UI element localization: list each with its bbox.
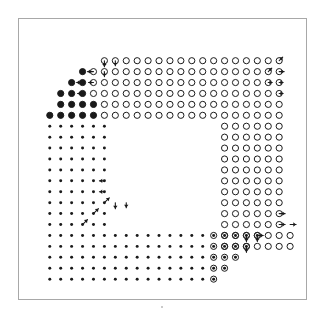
marker-open-circle xyxy=(167,58,173,64)
marker-small-dot xyxy=(59,168,62,171)
marker-open-circle xyxy=(232,189,238,195)
marker-ringed-dot-inner xyxy=(223,234,226,237)
marker-small-dot xyxy=(70,256,73,259)
marker-open-circle xyxy=(101,79,107,85)
marker-small-dot xyxy=(114,234,117,237)
marker-open-circle xyxy=(254,101,260,107)
marker-open-circle xyxy=(243,221,249,227)
marker-open-circle xyxy=(134,79,140,85)
marker-small-dot xyxy=(48,212,51,215)
marker-open-circle xyxy=(243,69,249,75)
marker-small-dot xyxy=(179,278,182,281)
marker-small-dot xyxy=(147,267,150,270)
marker-small-dot xyxy=(92,168,95,171)
marker-open-circle xyxy=(221,167,227,173)
marker-filled-circle xyxy=(58,101,64,107)
marker-open-circle xyxy=(254,243,260,249)
marker-small-dot xyxy=(59,158,62,161)
marker-open-circle xyxy=(211,101,217,107)
marker-open-circle xyxy=(265,145,271,151)
vector-arrow-head xyxy=(78,91,81,95)
marker-open-circle xyxy=(189,79,195,85)
marker-open-circle xyxy=(243,90,249,96)
marker-open-circle xyxy=(243,200,249,206)
marker-filled-circle xyxy=(90,112,96,118)
marker-small-dot xyxy=(103,267,106,270)
marker-small-dot xyxy=(59,125,62,128)
marker-small-dot xyxy=(158,278,161,281)
marker-small-dot xyxy=(179,234,182,237)
marker-small-dot xyxy=(81,267,84,270)
marker-small-dot xyxy=(92,201,95,204)
marker-small-dot xyxy=(168,245,171,248)
marker-filled-circle xyxy=(58,112,64,118)
vector-arrow-head xyxy=(99,179,102,183)
marker-small-dot xyxy=(81,234,84,237)
vector-arrow-head xyxy=(102,64,106,67)
marker-open-circle xyxy=(200,58,206,64)
marker-small-dot xyxy=(48,234,51,237)
marker-open-circle xyxy=(265,243,271,249)
marker-small-dot xyxy=(81,147,84,150)
vector-arrow-head xyxy=(282,222,285,226)
marker-open-circle xyxy=(112,90,118,96)
marker-filled-circle xyxy=(69,101,75,107)
marker-small-dot xyxy=(92,147,95,150)
marker-open-circle xyxy=(145,58,151,64)
marker-filled-circle xyxy=(47,112,53,118)
marker-open-circle xyxy=(265,112,271,118)
marker-open-circle xyxy=(156,101,162,107)
marker-small-dot xyxy=(59,212,62,215)
marker-open-circle xyxy=(265,221,271,227)
marker-small-dot xyxy=(81,212,84,215)
marker-small-dot xyxy=(48,179,51,182)
marker-small-dot xyxy=(147,278,150,281)
marker-small-dot xyxy=(103,212,106,215)
marker-small-dot xyxy=(92,245,95,248)
marker-small-dot xyxy=(59,267,62,270)
marker-small-dot xyxy=(70,125,73,128)
marker-open-circle xyxy=(167,90,173,96)
marker-open-circle xyxy=(254,200,260,206)
marker-small-dot xyxy=(136,245,139,248)
marker-open-circle xyxy=(254,123,260,129)
marker-open-circle xyxy=(254,69,260,75)
marker-small-dot xyxy=(48,256,51,259)
marker-small-dot xyxy=(103,256,106,259)
marker-small-dot xyxy=(190,245,193,248)
marker-open-circle xyxy=(265,101,271,107)
marker-filled-circle xyxy=(79,101,85,107)
marker-open-circle xyxy=(178,101,184,107)
marker-open-circle xyxy=(265,232,271,238)
marker-small-dot xyxy=(92,125,95,128)
marker-small-dot xyxy=(168,256,171,259)
marker-small-dot xyxy=(190,256,193,259)
marker-small-dot xyxy=(59,256,62,259)
marker-open-circle xyxy=(221,123,227,129)
series-ringed-dot-boundary xyxy=(211,232,261,282)
marker-open-circle xyxy=(189,90,195,96)
marker-open-circle xyxy=(123,90,129,96)
marker-small-dot xyxy=(190,278,193,281)
marker-ringed-dot-inner xyxy=(223,256,226,259)
marker-small-dot xyxy=(59,147,62,150)
marker-open-circle xyxy=(254,79,260,85)
marker-small-dot xyxy=(70,278,73,281)
marker-open-circle xyxy=(112,112,118,118)
marker-open-circle xyxy=(134,101,140,107)
marker-open-circle xyxy=(167,69,173,75)
marker-open-circle xyxy=(156,58,162,64)
marker-open-circle xyxy=(232,123,238,129)
marker-small-dot xyxy=(190,234,193,237)
marker-open-circle xyxy=(254,134,260,140)
marker-open-circle xyxy=(276,189,282,195)
marker-open-circle xyxy=(265,134,271,140)
marker-small-dot xyxy=(136,256,139,259)
marker-small-dot xyxy=(48,136,51,139)
marker-open-circle xyxy=(243,145,249,151)
series-open-circle-region xyxy=(90,58,293,250)
marker-open-circle xyxy=(167,112,173,118)
marker-small-dot xyxy=(59,190,62,193)
marker-open-circle xyxy=(276,145,282,151)
marker-open-circle xyxy=(243,58,249,64)
